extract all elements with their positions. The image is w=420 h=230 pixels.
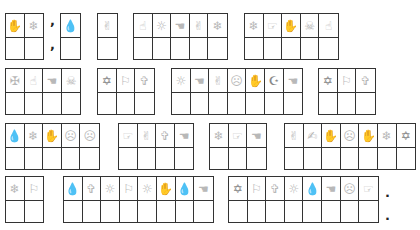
comma-mark: , [50, 38, 55, 51]
answer-cell[interactable] [285, 201, 304, 222]
answer-cell[interactable] [319, 93, 338, 114]
answer-cell[interactable] [6, 93, 25, 114]
answer-cell[interactable] [175, 148, 194, 169]
star-of-david-icon: ✡ [229, 177, 248, 201]
answer-cell[interactable] [265, 93, 284, 114]
answer-cell[interactable] [25, 38, 44, 59]
snowflake-icon: ❄ [210, 124, 229, 148]
snowflake-icon: ❄ [378, 124, 397, 148]
palm-hand-icon: ✋ [43, 124, 62, 148]
word-box: ✡⚐✞☼💧☚☹☞ [228, 176, 379, 223]
answer-cell[interactable] [120, 201, 139, 222]
answer-cell[interactable] [25, 148, 44, 169]
star-of-david-icon: ✡ [319, 69, 338, 93]
answer-cell[interactable] [319, 38, 338, 59]
answer-cell[interactable] [322, 201, 341, 222]
answer-cell[interactable] [62, 93, 81, 114]
point-right-hand-icon: ☞ [264, 14, 283, 38]
answer-cell[interactable] [117, 93, 136, 114]
answer-cell[interactable] [301, 38, 320, 59]
answer-cell[interactable] [378, 148, 397, 169]
latin-cross-icon: ✞ [135, 69, 154, 93]
answer-cell[interactable] [285, 148, 304, 169]
answer-cell[interactable] [264, 38, 283, 59]
answer-cell[interactable] [156, 148, 175, 169]
answer-cell[interactable] [25, 201, 44, 222]
answer-cell[interactable] [228, 93, 247, 114]
sun-icon: ☼ [101, 177, 120, 201]
answer-cell[interactable] [176, 201, 195, 222]
answer-cell[interactable] [64, 201, 83, 222]
answer-cell[interactable] [62, 148, 81, 169]
answer-cell[interactable] [134, 38, 153, 59]
droplet-icon: 💧 [64, 177, 83, 201]
answer-cell[interactable] [98, 93, 117, 114]
palm-hand-icon: ✋ [322, 124, 341, 148]
answer-cell[interactable] [229, 148, 248, 169]
answer-cell[interactable] [208, 38, 227, 59]
star-of-david-icon: ✡ [98, 69, 117, 93]
answer-cell[interactable] [172, 93, 191, 114]
answer-cell[interactable] [83, 201, 102, 222]
answer-cell[interactable] [229, 201, 248, 222]
answer-cell[interactable] [359, 148, 378, 169]
word-box: ✡⚐✞ [318, 68, 376, 115]
answer-cell[interactable] [246, 93, 265, 114]
answer-cell[interactable] [80, 148, 99, 169]
frown-face-icon: ☹ [228, 69, 247, 93]
answer-cell[interactable] [6, 148, 25, 169]
victory-hand-icon: ✌ [190, 14, 209, 38]
answer-cell[interactable] [194, 201, 213, 222]
answer-cell[interactable] [61, 38, 80, 59]
answer-cell[interactable] [171, 38, 190, 59]
answer-cell[interactable] [341, 148, 360, 169]
answer-cell[interactable] [304, 148, 323, 169]
latin-cross-icon: ✞ [156, 124, 175, 148]
answer-cell[interactable] [245, 38, 264, 59]
answer-cell[interactable] [210, 148, 229, 169]
point-up-hand-icon: ☝ [319, 14, 338, 38]
answer-cell[interactable] [341, 201, 360, 222]
crescent-star-icon: ☪ [265, 69, 284, 93]
answer-cell[interactable] [282, 38, 301, 59]
answer-cell[interactable] [209, 93, 228, 114]
answer-cell[interactable] [98, 38, 117, 59]
pointing-hand-left-icon: ☚ [322, 177, 341, 201]
snowflake-icon: ❄ [25, 14, 44, 38]
answer-cell[interactable] [43, 93, 62, 114]
answer-cell[interactable] [6, 201, 25, 222]
answer-cell[interactable] [138, 201, 157, 222]
pointing-hand-left-icon: ☚ [43, 69, 62, 93]
answer-cell[interactable] [359, 201, 378, 222]
frown-face-icon: ☹ [80, 124, 99, 148]
answer-cell[interactable] [338, 93, 357, 114]
point-right-hand-icon: ☞ [359, 177, 378, 201]
period-mark: . [385, 186, 390, 199]
answer-cell[interactable] [397, 148, 416, 169]
answer-cell[interactable] [101, 201, 120, 222]
answer-cell[interactable] [191, 93, 210, 114]
answer-cell[interactable] [6, 38, 25, 59]
answer-cell[interactable] [284, 93, 303, 114]
word-box: ❄☞☚ [209, 123, 267, 170]
answer-cell[interactable] [247, 148, 266, 169]
answer-cell[interactable] [248, 201, 267, 222]
answer-cell[interactable] [43, 148, 62, 169]
answer-cell[interactable] [153, 38, 172, 59]
answer-cell[interactable] [303, 201, 322, 222]
frown-face-icon: ☹ [341, 124, 360, 148]
point-right-hand-icon: ☞ [119, 124, 138, 148]
answer-cell[interactable] [25, 93, 44, 114]
answer-cell[interactable] [356, 93, 375, 114]
snowflake-icon: ❄ [6, 177, 25, 201]
answer-cell[interactable] [119, 148, 138, 169]
answer-cell[interactable] [266, 201, 285, 222]
answer-cell[interactable] [190, 38, 209, 59]
answer-cell[interactable] [157, 201, 176, 222]
answer-cell[interactable] [138, 148, 157, 169]
word-box: ☼☚✌☹✋☪☚ [171, 68, 303, 115]
answer-cell[interactable] [322, 148, 341, 169]
answer-cell[interactable] [135, 93, 154, 114]
word-box: 💧❄✋☹☹ [5, 123, 100, 170]
sun-icon: ☼ [172, 69, 191, 93]
